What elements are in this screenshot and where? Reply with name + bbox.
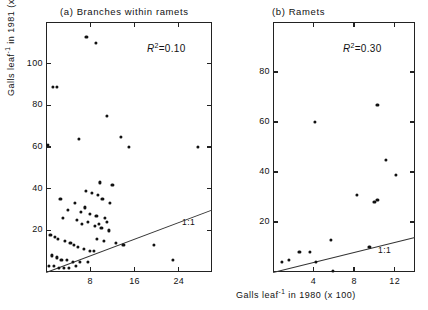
y-tick-label-b-80: 80 [244, 66, 270, 76]
x-tick-top-a-24 [178, 22, 179, 27]
r2-value: =0.30 [355, 43, 382, 54]
panel-b-title: (b) Ramets [272, 6, 325, 17]
y-tick-label-a-40: 40 [17, 183, 43, 193]
x-tick-label-a-16: 16 [122, 276, 148, 286]
y-tick-right-a-40 [207, 188, 212, 189]
y-tick-a-20 [46, 230, 51, 231]
x-tick-label-b-12: 12 [382, 276, 408, 286]
y-tick-label-b-20: 20 [244, 216, 270, 226]
y-tick-right-a-80 [207, 105, 212, 106]
y-tick-a-80 [46, 105, 51, 106]
y-tick-label-a-80: 80 [17, 99, 43, 109]
y-tick-right-b-40 [410, 171, 415, 172]
r2-symbol: R [343, 43, 351, 54]
x-tick-top-b-12 [394, 22, 395, 27]
x-tick-b-4 [313, 267, 314, 272]
x-axis-label-main: Galls leaf [236, 290, 279, 300]
y-tick-right-a-60 [207, 146, 212, 147]
y-tick-label-a-100: 100 [17, 58, 43, 68]
figure-container: (a) Branches within ramets R2=0.10 1:1 (… [0, 0, 428, 310]
y-tick-label-a-60: 60 [17, 141, 43, 151]
x-tick-label-a-24: 24 [166, 276, 192, 286]
x-tick-a-24 [178, 267, 179, 272]
y-axis-label-rest: in 1981 (x100) [6, 0, 16, 47]
y-tick-a-100 [46, 63, 51, 64]
y-tick-b-60 [273, 121, 278, 122]
y-tick-label-a-20: 20 [17, 224, 43, 234]
x-tick-label-b-4: 4 [301, 276, 327, 286]
panel-a-title: (a) Branches within ramets [60, 6, 189, 17]
y-tick-right-a-100 [207, 63, 212, 64]
y-axis-label-sup: -1 [4, 47, 11, 54]
panel-b-r2-annotation: R2=0.30 [343, 42, 382, 54]
y-tick-label-b-60: 60 [244, 116, 270, 126]
y-tick-a-60 [46, 146, 51, 147]
y-tick-b-80 [273, 71, 278, 72]
x-tick-label-b-8: 8 [341, 276, 367, 286]
r2-value: =0.10 [159, 43, 186, 54]
y-tick-a-40 [46, 188, 51, 189]
x-axis-label: Galls leaf-1 in 1980 (x 100) [236, 288, 356, 300]
y-tick-label-b-40: 40 [244, 166, 270, 176]
x-tick-top-b-4 [313, 22, 314, 27]
x-tick-b-8 [353, 267, 354, 272]
x-tick-a-16 [134, 267, 135, 272]
x-tick-label-a-8: 8 [77, 276, 103, 286]
y-tick-b-20 [273, 221, 278, 222]
y-tick-right-b-20 [410, 221, 415, 222]
y-axis-label-main: Galls leaf [6, 53, 16, 96]
r2-symbol: R [147, 43, 155, 54]
y-axis-label: Galls leaf-1 in 1981 (x100) [4, 0, 16, 96]
x-tick-b-12 [394, 267, 395, 272]
y-tick-right-b-60 [410, 121, 415, 122]
panel-b-plot-frame [273, 22, 415, 272]
x-tick-a-8 [90, 267, 91, 272]
x-axis-label-rest: in 1980 (x 100) [285, 290, 356, 300]
panel-a-r2-annotation: R2=0.10 [147, 42, 186, 54]
x-tick-top-b-8 [353, 22, 354, 27]
y-tick-right-a-20 [207, 230, 212, 231]
x-tick-top-a-16 [134, 22, 135, 27]
y-tick-b-40 [273, 171, 278, 172]
y-tick-right-b-80 [410, 71, 415, 72]
x-tick-top-a-8 [90, 22, 91, 27]
